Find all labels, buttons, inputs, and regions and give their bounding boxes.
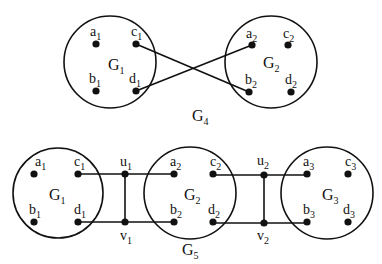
graph-caption-subscript: 5 — [194, 250, 199, 261]
vertex-label-base: d — [74, 202, 81, 217]
vertex-g2-c2: c2 — [283, 26, 294, 49]
vertex-label-subscript: 1 — [81, 209, 86, 220]
subgraph-label-base: G — [263, 54, 275, 71]
vertex-label-subscript: 1 — [80, 161, 85, 172]
vertex-label-base: u — [257, 153, 264, 168]
vertex-label-subscript: 1 — [36, 209, 41, 220]
vertex-label-base: d — [129, 71, 136, 86]
vertex-label-subscript: 1 — [136, 78, 141, 89]
graph-caption-subscript: 4 — [204, 116, 209, 127]
vertex-g2-d2: d2 — [285, 72, 297, 96]
subgraph-g2: G2 — [225, 16, 317, 108]
vertex-g3-d3: d3 — [343, 202, 355, 226]
vertex-dot — [260, 171, 267, 178]
vertex-label-subscript: 2 — [289, 33, 294, 44]
subgraph-label-subscript: 1 — [120, 65, 125, 76]
vertex-g3-a3: a3 — [303, 154, 314, 178]
vertex-label: a1 — [35, 154, 46, 172]
subgraph-label-base: G — [108, 56, 120, 73]
vertex-label-base: v — [257, 228, 264, 243]
vertex-label-base: b — [170, 202, 177, 217]
subgraph-label: G1 — [108, 56, 125, 76]
subgraph-label-base: G — [49, 186, 61, 203]
vertex-dot — [260, 219, 267, 226]
vertex-label: a2 — [170, 154, 181, 172]
vertex-label: d1 — [129, 71, 141, 89]
subgraph-label-subscript: 3 — [334, 195, 339, 206]
vertex-label-base: b — [245, 72, 252, 87]
graph-caption-base: G — [182, 241, 194, 258]
subgraph-g2: G2 — [144, 147, 236, 239]
vertex-g1-b1: b1 — [29, 202, 41, 226]
vertex-label-base: d — [343, 202, 350, 217]
vertex-g1-a1: a1 — [30, 154, 46, 178]
vertex-g3-b3: b3 — [303, 202, 315, 226]
vertex-label-base: v — [120, 228, 127, 243]
vertex-label: d3 — [343, 202, 355, 220]
vertex-label-subscript: 1 — [127, 235, 132, 246]
vertex-label-subscript: 2 — [216, 161, 221, 172]
subgraph-g1: G1 — [13, 148, 103, 238]
vertex-g2-d2: d2 — [208, 202, 220, 226]
vertex-label-subscript: 3 — [309, 161, 314, 172]
subgraph-label-subscript: 2 — [196, 195, 201, 206]
subgraph-label-subscript: 2 — [275, 63, 280, 74]
vertex-label-subscript: 1 — [127, 161, 132, 172]
vertex-label: c2 — [283, 26, 294, 44]
graph-caption: G4 — [192, 107, 209, 127]
graph-caption-base: G — [192, 107, 204, 124]
vertex-g1-b1: b1 — [89, 71, 101, 95]
graph-g5: G1G2G3a1c1b1d1a2c2b2d2a3c3b3d3u1v1u2v2G5 — [13, 147, 373, 261]
vertex-label-subscript: 2 — [215, 209, 220, 220]
vertex-label-subscript: 1 — [96, 78, 101, 89]
vertex-dot — [121, 218, 128, 225]
vertex-label-base: b — [303, 202, 310, 217]
diagram-canvas: G1G2a1c1b1d1a2c2b2d2G4 G1G2G3a1c1b1d1a2c… — [0, 0, 382, 264]
graph-caption: G5 — [182, 241, 199, 261]
vertex-g1-a1: a1 — [90, 24, 101, 48]
vertex-label: v1 — [120, 228, 132, 246]
vertex-label-subscript: 1 — [137, 31, 142, 42]
vertex-g1-d1: d1 — [129, 71, 141, 95]
vertex-label: a2 — [246, 26, 257, 44]
vertex-g2-b2: b2 — [245, 72, 257, 96]
vertex-label-base: d — [285, 72, 292, 87]
vertex-label-subscript: 2 — [264, 235, 269, 246]
subgraph-label: G3 — [322, 186, 339, 206]
subgraph-label-subscript: 1 — [61, 195, 66, 206]
vertex-label: b1 — [29, 202, 41, 220]
subgraph-g3: G3 — [281, 147, 373, 239]
graph-g4: G1G2a1c1b1d1a2c2b2d2G4 — [64, 16, 317, 127]
subgraph-label: G2 — [263, 54, 280, 74]
vertex-label: b1 — [89, 71, 101, 89]
vertex-label: b2 — [245, 72, 257, 90]
vertex-label: v2 — [257, 228, 269, 246]
vertex-label: u2 — [257, 153, 269, 171]
vertex-label-base: d — [208, 202, 215, 217]
vertex-label-subscript: 2 — [176, 161, 181, 172]
vertex-g2-a2: a2 — [246, 26, 257, 49]
vertex-g3-c3: c3 — [344, 154, 356, 178]
vertex-label-subscript: 2 — [177, 209, 182, 220]
vertex-label-subscript: 3 — [350, 209, 355, 220]
subgraph-g1: G1 — [64, 16, 156, 108]
subgraph-label: G1 — [49, 186, 66, 206]
vertex-label: d2 — [208, 202, 220, 220]
vertex-label-subscript: 2 — [264, 160, 269, 171]
vertex-label-base: b — [29, 202, 36, 217]
vertex-g2-b2: b2 — [170, 202, 182, 226]
vertex-label: a1 — [90, 24, 101, 42]
subgraph-label-base: G — [184, 186, 196, 203]
vertex-label: d2 — [285, 72, 297, 90]
vertex-label-subscript: 2 — [252, 79, 257, 90]
vertex-label: b2 — [170, 202, 182, 220]
vertex-label: u1 — [120, 154, 132, 172]
vertex-label: a3 — [303, 154, 314, 172]
subgraph-label: G2 — [184, 186, 201, 206]
vertex-label-subscript: 3 — [310, 209, 315, 220]
vertex-label-subscript: 2 — [292, 79, 297, 90]
vertex-g2-a2: a2 — [170, 154, 181, 178]
subgraph-label-base: G — [322, 186, 334, 203]
vertex-label-subscript: 3 — [351, 161, 356, 172]
vertex-label-base: u — [120, 154, 127, 169]
